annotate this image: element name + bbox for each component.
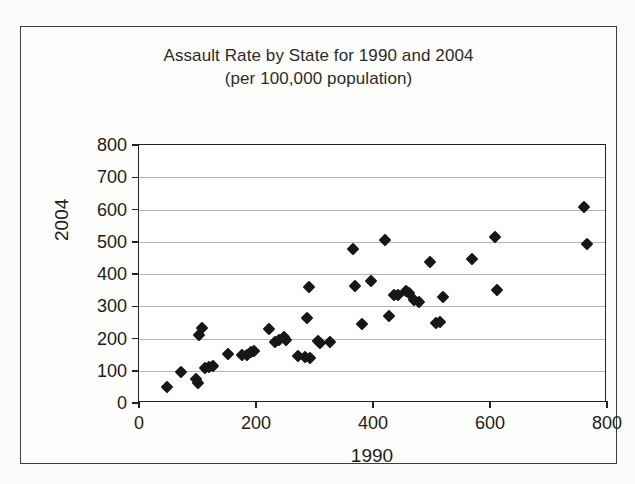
x-axis-title: 1990 (138, 445, 606, 467)
data-point (301, 311, 314, 324)
x-tick-label: 200 (241, 413, 271, 434)
data-point (378, 234, 391, 247)
data-point (175, 366, 188, 379)
x-tick-mark (489, 401, 491, 408)
y-axis-title: 2004 (51, 199, 73, 241)
y-tick-label: 100 (97, 360, 127, 381)
gridline (139, 177, 605, 178)
chart-title: Assault Rate by State for 1990 and 2004 … (21, 45, 616, 91)
y-tick-label: 0 (117, 393, 127, 414)
data-point (466, 252, 479, 265)
x-tick-mark (255, 401, 257, 408)
y-tick-label: 300 (97, 296, 127, 317)
y-tick-label: 600 (97, 199, 127, 220)
y-tick-mark (132, 306, 139, 308)
y-tick-label: 700 (97, 167, 127, 188)
gridline (139, 339, 605, 340)
x-tick-label: 600 (475, 413, 505, 434)
x-tick-mark (372, 401, 374, 408)
data-point (424, 256, 437, 269)
x-tick-label: 400 (358, 413, 388, 434)
plot-area: 0100200300400500600700800 0200400600800 (138, 144, 606, 402)
data-point (356, 317, 369, 330)
data-point (491, 284, 504, 297)
y-tick-mark (132, 338, 139, 340)
y-tick-mark (132, 370, 139, 372)
page-background: Assault Rate by State for 1990 and 2004 … (0, 0, 635, 484)
data-point (437, 291, 450, 304)
y-tick-label: 800 (97, 135, 127, 156)
x-tick-mark (138, 401, 140, 408)
gridline (139, 306, 605, 307)
y-tick-mark (132, 273, 139, 275)
y-tick-label: 400 (97, 264, 127, 285)
x-tick-label: 0 (134, 413, 144, 434)
chart-title-line2: (per 100,000 population) (21, 68, 616, 91)
y-tick-mark (132, 144, 139, 146)
figure-frame: Assault Rate by State for 1990 and 2004 … (20, 26, 617, 464)
data-point (580, 237, 593, 250)
gridline (139, 242, 605, 243)
data-point (364, 274, 377, 287)
data-point (577, 201, 590, 214)
x-tick-label: 800 (592, 413, 622, 434)
data-point (161, 381, 174, 394)
y-tick-mark (132, 177, 139, 179)
data-point (303, 281, 316, 294)
chart-title-line1: Assault Rate by State for 1990 and 2004 (163, 46, 473, 65)
y-tick-mark (132, 241, 139, 243)
data-point (347, 242, 360, 255)
y-tick-label: 200 (97, 328, 127, 349)
gridline (139, 210, 605, 211)
y-tick-label: 500 (97, 231, 127, 252)
data-point (262, 323, 275, 336)
x-tick-mark (606, 401, 608, 408)
data-point (382, 310, 395, 323)
data-point (349, 279, 362, 292)
y-tick-mark (132, 209, 139, 211)
data-point (222, 348, 235, 361)
